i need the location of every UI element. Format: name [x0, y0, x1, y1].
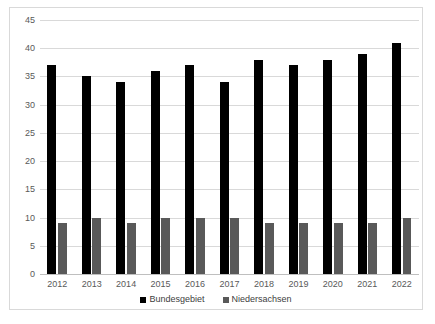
- bar-bundesgebiet-2014[interactable]: [116, 82, 125, 274]
- bar-niedersachsen-2015[interactable]: [161, 218, 170, 274]
- bar-niedersachsen-2022[interactable]: [403, 218, 412, 274]
- bar-niedersachsen-2021[interactable]: [368, 223, 377, 274]
- bar-niedersachsen-2018[interactable]: [265, 223, 274, 274]
- bar-bundesgebiet-2019[interactable]: [289, 65, 298, 274]
- bar-bundesgebiet-2022[interactable]: [392, 43, 401, 274]
- x-axis-tick-label: 2020: [316, 280, 350, 289]
- bar-bundesgebiet-2013[interactable]: [82, 76, 91, 274]
- bar-niedersachsen-2016[interactable]: [196, 218, 205, 274]
- y-axis-tick-label: 45: [25, 16, 35, 25]
- x-axis-tick-label: 2015: [143, 280, 177, 289]
- bar-bundesgebiet-2016[interactable]: [185, 65, 194, 274]
- legend-entry-niedersachsen[interactable]: Niedersachsen: [223, 295, 292, 304]
- y-axis-tick-label: 40: [25, 44, 35, 53]
- bar-bundesgebiet-2020[interactable]: [323, 60, 332, 274]
- y-axis-tick-label: 25: [25, 128, 35, 137]
- bar-niedersachsen-2012[interactable]: [58, 223, 67, 274]
- legend-swatch-icon: [140, 297, 146, 303]
- x-axis-tick-label: 2022: [385, 280, 419, 289]
- bar-group-2014: 2014: [109, 20, 143, 274]
- y-axis-tick-label: 20: [25, 157, 35, 166]
- y-axis-tick-label: 0: [30, 270, 35, 279]
- x-axis-tick-label: 2018: [247, 280, 281, 289]
- bar-group-2021: 2021: [350, 20, 384, 274]
- bar-bundesgebiet-2018[interactable]: [254, 60, 263, 274]
- x-axis-tick-label: 2017: [212, 280, 246, 289]
- bar-group-2022: 2022: [385, 20, 419, 274]
- gridline-0: [40, 274, 419, 275]
- bar-group-2013: 2013: [74, 20, 108, 274]
- bar-group-2015: 2015: [143, 20, 177, 274]
- x-axis-tick-label: 2012: [40, 280, 74, 289]
- bar-groups: 2012201320142015201620172018201920202021…: [40, 20, 419, 274]
- x-axis-tick-label: 2014: [109, 280, 143, 289]
- x-axis-tick-label: 2019: [281, 280, 315, 289]
- bar-group-2019: 2019: [281, 20, 315, 274]
- y-axis-tick-label: 10: [25, 213, 35, 222]
- bar-niedersachsen-2019[interactable]: [299, 223, 308, 274]
- y-axis-tick-label: 15: [25, 185, 35, 194]
- bar-group-2020: 2020: [316, 20, 350, 274]
- x-axis-tick-label: 2016: [178, 280, 212, 289]
- x-axis-tick-label: 2013: [74, 280, 108, 289]
- legend-label: Niedersachsen: [232, 295, 292, 304]
- bar-niedersachsen-2013[interactable]: [92, 218, 101, 274]
- bar-bundesgebiet-2015[interactable]: [151, 71, 160, 274]
- bar-niedersachsen-2017[interactable]: [230, 218, 239, 274]
- bar-niedersachsen-2020[interactable]: [334, 223, 343, 274]
- bar-bundesgebiet-2021[interactable]: [358, 54, 367, 274]
- bar-bundesgebiet-2017[interactable]: [220, 82, 229, 274]
- bar-group-2018: 2018: [247, 20, 281, 274]
- bar-group-2012: 2012: [40, 20, 74, 274]
- chart-legend: BundesgebietNiedersachsen: [10, 295, 422, 304]
- y-axis-tick-label: 5: [30, 241, 35, 250]
- x-axis-tick-label: 2021: [350, 280, 384, 289]
- legend-label: Bundesgebiet: [149, 295, 204, 304]
- plot-area: 051015202530354045 201220132014201520162…: [40, 20, 419, 274]
- legend-entry-bundesgebiet[interactable]: Bundesgebiet: [140, 295, 204, 304]
- bar-niedersachsen-2014[interactable]: [127, 223, 136, 274]
- y-axis-tick-label: 35: [25, 72, 35, 81]
- y-axis-tick-label: 30: [25, 100, 35, 109]
- chart-container: 051015202530354045 201220132014201520162…: [9, 7, 423, 310]
- legend-swatch-icon: [223, 297, 229, 303]
- bar-bundesgebiet-2012[interactable]: [47, 65, 56, 274]
- bar-group-2016: 2016: [178, 20, 212, 274]
- bar-group-2017: 2017: [212, 20, 246, 274]
